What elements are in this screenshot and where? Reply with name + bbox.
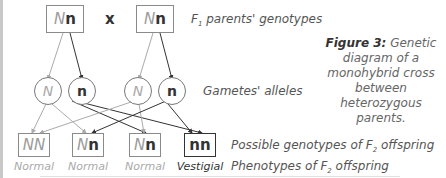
gamete-allele: n [68, 77, 96, 105]
figure-caption: Figure 3: Genetic diagram of a monohybri… [318, 36, 444, 126]
offspring-phenotype: Normal [115, 160, 175, 173]
parent-genotype-right: Nn [136, 5, 174, 33]
parents-label: F1 parents' genotypes [191, 12, 322, 28]
figure-number: Figure 3: [326, 36, 387, 50]
offspring-genotype: NN [18, 133, 50, 157]
offspring-phenotype: Vestigial [170, 160, 230, 173]
allele-dominant: N [54, 10, 65, 28]
allele-recessive: n [65, 10, 76, 28]
parent-genotype-left: Nn [46, 5, 84, 33]
allele-recessive: n [155, 10, 166, 28]
genotypes-label: Possible genotypes of F2 offspring [231, 138, 434, 154]
offspring-phenotype: Normal [58, 160, 118, 173]
offspring-genotype: Nn [129, 133, 161, 157]
offspring-genotype: Nn [72, 133, 104, 157]
gametes-label: Gametes' alleles [203, 84, 303, 98]
gamete-allele: N [34, 77, 62, 105]
offspring-genotype: nn [184, 133, 216, 157]
allele-dominant: N [144, 10, 155, 28]
cross-symbol: x [105, 10, 115, 28]
offspring-phenotype: Normal [4, 160, 64, 173]
phenotypes-label: Phenotypes of F2 offspring [231, 159, 389, 175]
gamete-allele: N [124, 77, 152, 105]
gamete-allele: n [158, 77, 186, 105]
